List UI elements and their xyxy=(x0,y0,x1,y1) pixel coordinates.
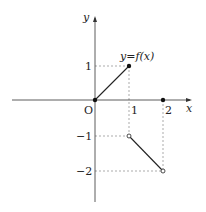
open-point-2-m2 xyxy=(161,169,165,173)
x-axis-label: x xyxy=(186,102,193,115)
y-axis-label: y xyxy=(82,11,90,24)
y-tick-m1: −1 xyxy=(76,130,92,143)
point-1-1 xyxy=(127,64,131,68)
function-label: y=f(x) xyxy=(119,50,154,63)
segment-1 xyxy=(95,66,129,100)
guide-lines xyxy=(95,66,163,171)
origin-label: O xyxy=(84,104,93,117)
y-tick-1: 1 xyxy=(85,60,92,73)
y-tick-m2: −2 xyxy=(76,165,92,178)
open-point-1-m1 xyxy=(127,134,131,138)
function-graph: y x O 1 2 1 −1 −2 y=f(x) xyxy=(0,0,206,212)
point-origin xyxy=(93,98,97,102)
point-2-0 xyxy=(161,98,165,102)
segment-2 xyxy=(129,136,163,171)
x-tick-2: 2 xyxy=(165,104,172,117)
y-axis-arrow-icon xyxy=(93,16,97,22)
x-tick-1: 1 xyxy=(131,104,138,117)
